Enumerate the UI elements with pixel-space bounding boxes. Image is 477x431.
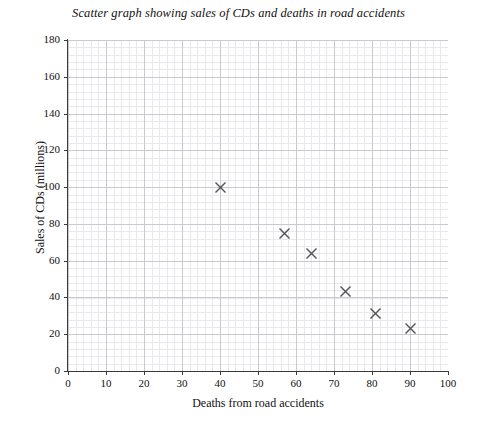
- x-tick-label: 90: [390, 377, 430, 389]
- data-point-marker: [278, 227, 291, 240]
- x-tick-mark: [258, 371, 259, 375]
- x-tick-label: 50: [238, 377, 278, 389]
- x-tick-mark: [68, 371, 69, 375]
- major-gridlines: [68, 40, 448, 371]
- y-tick-label: 0: [10, 364, 60, 376]
- x-tick-label: 30: [162, 377, 202, 389]
- x-tick-label: 60: [276, 377, 316, 389]
- x-tick-mark: [106, 371, 107, 375]
- y-tick-mark: [64, 224, 68, 225]
- data-point-marker: [339, 285, 352, 298]
- y-tick-mark: [64, 187, 68, 188]
- chart-title: Scatter graph showing sales of CDs and d…: [0, 6, 477, 21]
- y-tick-mark: [64, 334, 68, 335]
- y-tick-mark: [64, 371, 68, 372]
- y-axis-line: [67, 39, 68, 372]
- y-tick-mark: [64, 114, 68, 115]
- x-tick-mark: [372, 371, 373, 375]
- scatter-chart-figure: Scatter graph showing sales of CDs and d…: [0, 0, 477, 431]
- x-tick-label: 20: [124, 377, 164, 389]
- y-tick-mark: [64, 297, 68, 298]
- x-tick-mark: [410, 371, 411, 375]
- x-tick-label: 0: [48, 377, 88, 389]
- y-tick-mark: [64, 77, 68, 78]
- y-axis-label: Sales of CDs (millions): [33, 38, 48, 358]
- x-tick-label: 80: [352, 377, 392, 389]
- plot-area: [68, 40, 448, 371]
- data-point-marker: [214, 181, 227, 194]
- data-point-marker: [305, 247, 318, 260]
- x-axis-label: Deaths from road accidents: [68, 396, 448, 411]
- x-tick-label: 10: [86, 377, 126, 389]
- y-tick-mark: [64, 150, 68, 151]
- x-tick-mark: [296, 371, 297, 375]
- minor-gridlines: [68, 40, 448, 371]
- x-tick-mark: [144, 371, 145, 375]
- x-tick-label: 40: [200, 377, 240, 389]
- y-tick-mark: [64, 261, 68, 262]
- x-tick-label: 100: [428, 377, 468, 389]
- x-tick-mark: [182, 371, 183, 375]
- x-tick-label: 70: [314, 377, 354, 389]
- data-point-marker: [404, 322, 417, 335]
- data-point-marker: [369, 307, 382, 320]
- x-tick-mark: [448, 371, 449, 375]
- x-tick-mark: [220, 371, 221, 375]
- y-tick-mark: [64, 40, 68, 41]
- x-tick-mark: [334, 371, 335, 375]
